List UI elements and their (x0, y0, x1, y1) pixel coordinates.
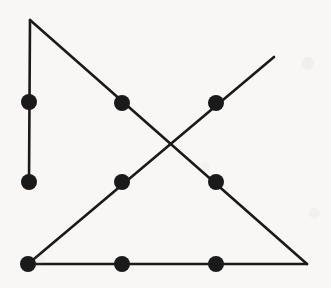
bottom-right-vertex (208, 256, 224, 272)
upper-middle-vertex (114, 95, 130, 111)
center-left-vertex (114, 174, 130, 190)
graph-drawing-svg (0, 0, 331, 288)
center-right-vertex (208, 174, 224, 190)
upper-right-vertex (208, 95, 224, 111)
bottom-left-vertex (20, 256, 36, 272)
left-lower-vertex (21, 174, 37, 190)
bottom-middle-vertex (114, 256, 130, 272)
left-upper-vertex (21, 94, 37, 110)
figure-container (0, 0, 331, 288)
